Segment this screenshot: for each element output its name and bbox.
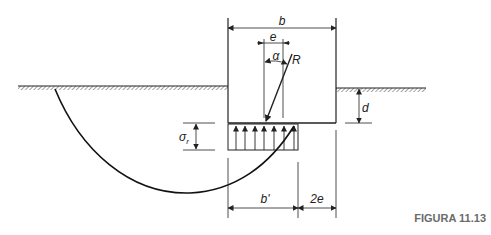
- label-alpha: α: [273, 49, 281, 63]
- dimension-d: d: [345, 89, 372, 123]
- dimension-2e: 2e: [298, 192, 336, 208]
- dimension-b-prime: b': [228, 192, 298, 208]
- label-d: d: [362, 101, 369, 115]
- resultant-force-R: R: [266, 53, 301, 121]
- figure-caption: FIGURA 11.13: [414, 212, 486, 224]
- ground-surface-left: [18, 86, 228, 90]
- dimension-b: b: [228, 14, 336, 28]
- footing-diagram: b e α R d σr: [0, 0, 491, 235]
- dimension-e: e: [257, 30, 290, 118]
- footing: [228, 18, 336, 123]
- dimension-sigma-r: σr: [179, 123, 215, 150]
- angle-alpha: α: [265, 49, 287, 64]
- label-b-prime: b': [261, 192, 271, 206]
- label-sigma-r: σr: [179, 130, 189, 146]
- failure-surface-curve: [55, 89, 294, 193]
- label-R: R: [292, 53, 301, 67]
- label-e: e: [270, 30, 277, 44]
- ground-surface-right: [336, 88, 426, 92]
- label-b: b: [279, 14, 286, 28]
- label-2e: 2e: [309, 192, 324, 206]
